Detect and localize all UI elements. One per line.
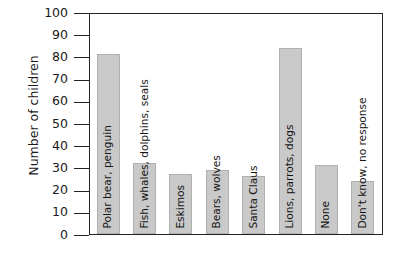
y-axis-tick-label: 30 <box>28 162 68 175</box>
bar: None <box>315 165 338 234</box>
y-axis-tick-mark <box>74 191 89 192</box>
y-axis-tick-labels: 1009080706050403020100 <box>28 0 68 262</box>
y-axis-tick-label: 0 <box>28 229 68 242</box>
y-axis-tick-mark <box>74 213 89 214</box>
y-axis-tick-mark <box>74 168 89 169</box>
bar-label: Lions, parrots, dogs <box>284 125 295 229</box>
y-axis-tick-label: 90 <box>28 29 68 42</box>
bar-label: Bears, wolves <box>211 156 222 229</box>
bar: Santa Claus <box>242 176 265 234</box>
y-axis-tick-label: 70 <box>28 73 68 86</box>
bar-label: Polar bear, penguin <box>102 125 113 229</box>
bar: Fish, whales, dolphins, seals <box>133 163 156 234</box>
plot-area: Polar bear, penguinFish, whales, dolphin… <box>90 14 382 234</box>
y-axis-tick-label: 80 <box>28 51 68 64</box>
bar-label: Fish, whales, dolphins, seals <box>139 80 150 229</box>
y-axis-tick-mark <box>74 80 89 81</box>
bar: Polar bear, penguin <box>97 54 120 234</box>
y-axis-tick-mark <box>74 102 89 103</box>
y-axis-tick-mark <box>74 13 89 14</box>
bar: Don't know, no response <box>351 181 374 234</box>
y-axis-tick-label: 10 <box>28 206 68 219</box>
y-axis-tick-mark <box>74 235 89 236</box>
y-axis-tick-label: 40 <box>28 140 68 153</box>
bar-chart: Number of children 100908070605040302010… <box>0 0 398 262</box>
bar: Lions, parrots, dogs <box>279 48 302 234</box>
bar-label: Don't know, no response <box>357 98 368 229</box>
y-axis-tick-mark <box>74 57 89 58</box>
y-axis-tick-mark <box>74 146 89 147</box>
y-axis-tick-mark <box>74 35 89 36</box>
bar: Bears, wolves <box>206 170 229 234</box>
y-axis-tick-label: 50 <box>28 118 68 131</box>
y-axis-tick-label: 100 <box>28 7 68 20</box>
plot-frame: Polar bear, penguinFish, whales, dolphin… <box>89 13 383 235</box>
y-axis-tick-mark <box>74 124 89 125</box>
y-axis-tick-label: 60 <box>28 95 68 108</box>
bar-label: None <box>320 201 331 229</box>
y-axis-tick-label: 20 <box>28 184 68 197</box>
bar-label: Santa Claus <box>248 166 259 229</box>
bar-label: Eskimos <box>175 185 186 229</box>
bar: Eskimos <box>169 174 192 234</box>
